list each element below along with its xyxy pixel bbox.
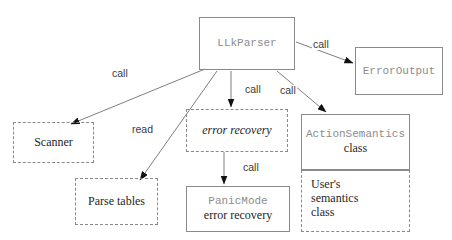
node-actionsemantics[interactable]: ActionSemanticsclass: [301, 114, 410, 170]
node-actionsemantics-text-2: class: [344, 141, 367, 155]
node-errorrecovery[interactable]: error recovery: [186, 109, 288, 152]
node-usersemantics-text-3: class: [311, 205, 334, 219]
diagram-canvas: LLkParserErrorOutputScannerParse tablese…: [0, 0, 452, 240]
node-usersemantics-text-2: semantics: [311, 191, 358, 205]
edge-label-e_scanner: call: [111, 68, 129, 79]
edge-label-e_actionsem: call: [279, 85, 297, 96]
node-actionsemantics-text-1: ActionSemantics: [306, 128, 405, 141]
node-llkparser[interactable]: LLkParser: [199, 17, 295, 70]
node-parsetables-text-1: Parse tables: [88, 194, 145, 208]
node-panicmode-text-1: PanicMode: [208, 195, 267, 208]
edge-e_scanner: [71, 69, 205, 124]
node-erroroutput[interactable]: ErrorOutput: [355, 47, 443, 95]
edge-label-e_erroroutput: call: [312, 39, 330, 50]
node-usersemantics[interactable]: User'ssemanticsclass: [301, 170, 410, 232]
edge-label-e_errorrec: call: [244, 84, 262, 95]
node-panicmode[interactable]: PanicModeerror recovery: [186, 186, 290, 232]
node-usersemantics-text-1: User's: [311, 177, 341, 191]
node-llkparser-text-1: LLkParser: [217, 37, 276, 50]
node-parsetables[interactable]: Parse tables: [75, 178, 158, 225]
node-scanner-text-1: Scanner: [34, 135, 73, 149]
edge-label-e_panicmode: call: [242, 162, 260, 173]
node-panicmode-text-2: error recovery: [204, 208, 272, 222]
edge-label-e_parse: read: [131, 124, 154, 135]
node-erroroutput-text-1: ErrorOutput: [363, 65, 436, 78]
node-errorrecovery-text-1: error recovery: [202, 123, 271, 137]
node-scanner[interactable]: Scanner: [13, 122, 94, 163]
